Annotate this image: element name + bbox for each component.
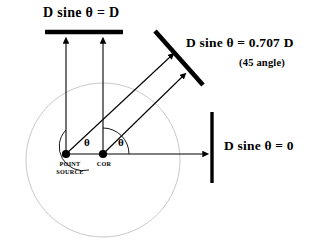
label-cor: COR <box>89 160 119 168</box>
cor-marker <box>99 150 107 158</box>
label-theta-left: θ <box>84 136 90 148</box>
label-diagonal-detector: D sine θ = 0.707 D <box>186 36 294 50</box>
point-source-marker <box>62 150 70 158</box>
label-point-source: POINT SOURCE <box>48 160 92 176</box>
ray-cor-diagonal <box>103 77 182 154</box>
label-top-detector: D sine θ = D <box>43 6 119 21</box>
label-right-detector: D sine θ = 0 <box>224 139 294 153</box>
label-diagonal-detector-angle: (45 angle) <box>239 57 285 68</box>
label-theta-right: θ <box>118 136 124 148</box>
